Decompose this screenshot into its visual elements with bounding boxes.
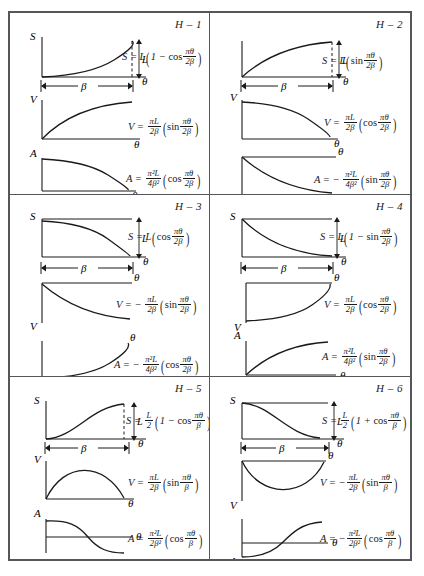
h6-equation-v: V = −πL2β(sinπθβ) bbox=[320, 473, 398, 493]
cell-label-h5: H – 5 bbox=[175, 382, 202, 394]
svg-text:β: β bbox=[280, 262, 287, 274]
cell-h2: H – 2 L θ bbox=[210, 13, 410, 195]
h6-equation-s: S = L2(1 + cosπθβ) bbox=[322, 411, 407, 431]
h1-equation-a: A = π²L4β²(cosπθ2β) bbox=[126, 169, 202, 189]
h2-equation-s: S = L(sinπθ2β) bbox=[322, 51, 383, 71]
svg-text:S: S bbox=[230, 394, 236, 406]
svg-text:θ: θ bbox=[134, 271, 140, 283]
h3-equation-a: A = − π²L4β²(cosπθ2β) bbox=[114, 355, 199, 375]
h4-equation-s: S = L(1 − sinπθ2β) bbox=[320, 227, 399, 247]
h1-beta-dimension: β bbox=[28, 79, 148, 93]
svg-text:S: S bbox=[34, 394, 40, 406]
svg-text:θ: θ bbox=[328, 449, 334, 461]
svg-text:A: A bbox=[33, 507, 41, 519]
svg-text:A: A bbox=[233, 329, 241, 341]
cell-label-h1: H – 1 bbox=[175, 18, 202, 30]
svg-text:θ: θ bbox=[340, 369, 346, 377]
svg-text:S: S bbox=[30, 210, 36, 222]
h3-equation-v: V = − πL2β(sinπθ2β) bbox=[116, 295, 197, 315]
svg-text:θ: θ bbox=[338, 145, 344, 157]
svg-text:β: β bbox=[80, 80, 87, 92]
svg-text:V: V bbox=[230, 91, 238, 103]
h5-equation-a: A = π²L2β²(cosπθβ) bbox=[128, 529, 204, 549]
h4-equation-v: V = πL2β(cosπθ2β) bbox=[324, 295, 397, 315]
cell-h4: H – 4 S L θ bbox=[210, 195, 410, 377]
svg-text:S: S bbox=[230, 210, 236, 222]
svg-text:A: A bbox=[229, 555, 237, 559]
h6-equation-a: A = −π²L2β²(cosπθβ) bbox=[320, 529, 403, 549]
cell-label-h6: H – 6 bbox=[376, 382, 403, 394]
h5-equation-v: V = πL2β(sinπθβ) bbox=[128, 473, 199, 493]
svg-text:A: A bbox=[29, 147, 37, 159]
curve-grid: H – 1 S L θ bbox=[10, 13, 410, 559]
h3-equation-s: S = L(cosπθ2β) bbox=[128, 227, 191, 247]
h4-equation-a: A = π²L4β²(sinπθ2β) bbox=[322, 347, 396, 367]
h1-equation-s: S = L(1 − cosπθ2β) bbox=[122, 47, 202, 67]
svg-text:V: V bbox=[230, 499, 238, 511]
svg-text:β: β bbox=[80, 262, 87, 274]
h4-beta-dimension: β bbox=[228, 261, 348, 275]
svg-text:V: V bbox=[30, 93, 38, 105]
cell-h3: H – 3 S L θ bbox=[10, 195, 210, 377]
h3-beta-dimension: β bbox=[28, 261, 148, 275]
cell-label-h4: H – 4 bbox=[376, 200, 403, 212]
cell-h5: H – 5 S L θ bbox=[10, 377, 210, 559]
h2-equation-v: V = πL2β(cosπθ2β) bbox=[324, 113, 397, 133]
cell-label-h3: H – 3 bbox=[175, 200, 202, 212]
svg-text:θ: θ bbox=[334, 271, 340, 283]
cell-h1: H – 1 S L θ bbox=[10, 13, 210, 195]
cell-label-h2: H – 2 bbox=[376, 18, 403, 30]
h5-equation-s: S = L2(1 − cosπθβ) bbox=[126, 411, 210, 431]
cell-h6: H – 6 S L θ bbox=[210, 377, 410, 559]
svg-text:θ: θ bbox=[130, 331, 136, 343]
motion-curve-sheet: H – 1 S L θ bbox=[8, 11, 412, 561]
svg-text:V: V bbox=[30, 320, 38, 332]
svg-text:S: S bbox=[30, 30, 36, 42]
h2-equation-a: A = − π²L4β²(sinπθ2β) bbox=[314, 170, 398, 190]
svg-text:V: V bbox=[34, 453, 42, 465]
h1-equation-v: V = πL2β(sinπθ2β) bbox=[128, 117, 199, 137]
